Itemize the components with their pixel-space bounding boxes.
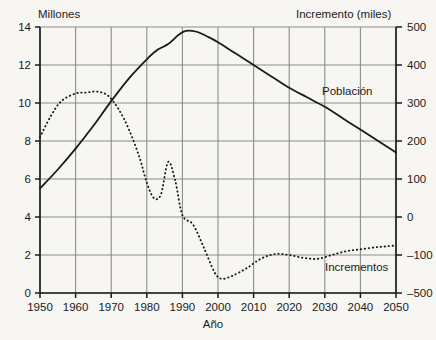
left-axis-tick-label: 12	[18, 59, 31, 71]
x-axis-tick-label: 1950	[27, 301, 53, 313]
x-axis-tick-label: 2000	[205, 301, 231, 313]
x-axis-tick-label: 2030	[312, 301, 338, 313]
series-label-incrementos: Incrementos	[325, 261, 389, 273]
series-label-poblacion: Población	[322, 85, 373, 97]
population-increment-chart: 024681012145004003002001000–100–50019501…	[0, 0, 436, 340]
left-axis-tick-label: 6	[25, 173, 31, 185]
right-axis-tick-label: 300	[407, 97, 426, 109]
right-axis-tick-label: –500	[407, 287, 433, 299]
right-axis-tick-label: –100	[407, 249, 433, 261]
left-axis-tick-label: 0	[25, 287, 31, 299]
x-axis-title: Año	[203, 318, 223, 330]
x-axis-tick-label: 2020	[276, 301, 302, 313]
left-axis-tick-label: 4	[25, 211, 32, 223]
left-axis-tick-label: 2	[25, 249, 31, 261]
right-axis-tick-label: 100	[407, 173, 426, 185]
left-axis-title: Millones	[38, 8, 80, 20]
x-axis-tick-label: 1990	[170, 301, 196, 313]
right-axis-tick-label: 400	[407, 59, 426, 71]
left-axis-tick-label: 10	[18, 97, 31, 109]
x-axis-tick-label: 1970	[98, 301, 124, 313]
right-axis-tick-label: 500	[407, 21, 426, 33]
x-axis-tick-label: 2040	[348, 301, 374, 313]
right-axis-tick-label: 0	[407, 211, 413, 223]
chart-canvas: 024681012145004003002001000–100–50019501…	[0, 0, 436, 340]
x-axis-tick-label: 2050	[383, 301, 409, 313]
left-axis-tick-label: 14	[18, 21, 31, 33]
x-axis-tick-label: 1960	[63, 301, 89, 313]
right-axis-tick-label: 200	[407, 135, 426, 147]
x-axis-tick-label: 1980	[134, 301, 160, 313]
right-axis-title: Incremento (miles)	[296, 8, 391, 20]
x-axis-tick-label: 2010	[241, 301, 267, 313]
left-axis-tick-label: 8	[25, 135, 31, 147]
